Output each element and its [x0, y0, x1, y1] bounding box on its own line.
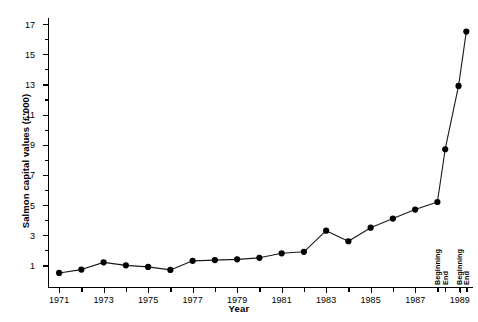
- x-tick-1971: [59, 288, 60, 293]
- data-point: 1973: 1.2: [101, 259, 107, 265]
- x-tick-minor-1978: [215, 288, 216, 292]
- data-point: 1976: 0.7: [167, 267, 173, 273]
- x-tick-1987: [415, 288, 416, 293]
- data-point: 1974: 1: [123, 262, 129, 268]
- data-point: 1975: 0.9: [145, 264, 151, 270]
- x-tick-minor-1986: [393, 288, 394, 292]
- data-point: 1979: 1.4: [234, 256, 240, 262]
- x-tick-label-1989: 1989: [450, 296, 470, 305]
- x-tick-period-2: [459, 288, 460, 292]
- x-tick-label-1983: 1983: [316, 296, 336, 305]
- data-point: 1984: 2.6: [345, 238, 351, 244]
- x-tick-1975: [148, 288, 149, 293]
- y-tick-label: 9: [30, 141, 35, 150]
- series-markers: 1971: 0.51972: 0.721973: 1.21974: 11975:…: [56, 28, 469, 276]
- x-tick-1973: [104, 288, 105, 293]
- y-tick-label: 1: [30, 261, 35, 270]
- data-point: 1978: 1.35: [212, 257, 218, 263]
- y-tick-label: 13: [25, 80, 35, 89]
- x-tick-label-1985: 1985: [361, 296, 381, 305]
- x-tick-minor-1982: [304, 288, 305, 292]
- y-tick-label: 17: [25, 20, 35, 29]
- x-tick-label-1979: 1979: [227, 296, 247, 305]
- data-point: 1989 Beginning: 12.9: [455, 83, 461, 89]
- data-point: 1980: 1.5: [256, 255, 262, 261]
- data-point: 1989 End: 16.5: [463, 28, 469, 34]
- x-tick-period-1: [445, 288, 446, 292]
- x-tick-1989: [460, 288, 461, 293]
- x-tick-1977: [193, 288, 194, 293]
- x-tick-label-1975: 1975: [138, 296, 158, 305]
- data-point: 1983: 3.3: [323, 228, 329, 234]
- x-tick-1981: [282, 288, 283, 293]
- y-tick-label: 7: [30, 171, 35, 180]
- series-line: [59, 32, 466, 273]
- x-tick-label-1987: 1987: [405, 296, 425, 305]
- data-point: 1977: 1.3: [190, 258, 196, 264]
- data-point: 1971: 0.5: [56, 270, 62, 276]
- x-tick-minor-1984: [348, 288, 349, 292]
- x-tick-1985: [371, 288, 372, 293]
- plot-area: 1357911131517 19711973197519771979198119…: [48, 18, 473, 288]
- data-point: 1985: 3.5: [368, 225, 374, 231]
- y-tick-label: 3: [30, 231, 35, 240]
- data-point: 1987: 4.7: [412, 206, 418, 212]
- y-tick-label: 15: [25, 50, 35, 59]
- x-tick-period-3: [466, 288, 467, 292]
- period-label-end-1: End: [442, 271, 449, 285]
- x-tick-1979: [237, 288, 238, 293]
- data-point: 1982: 1.9: [301, 249, 307, 255]
- x-tick-period-0: [437, 288, 438, 292]
- x-tick-1983: [326, 288, 327, 293]
- x-tick-minor-1972: [81, 288, 82, 292]
- period-label-end-3: End: [463, 271, 470, 285]
- data-series-salmon-capital-values: 1971: 0.51972: 0.721973: 1.21974: 11975:…: [48, 18, 473, 288]
- data-point: 1972: 0.72: [78, 267, 84, 273]
- x-tick-label-1971: 1971: [49, 296, 69, 305]
- x-tick-label-1981: 1981: [272, 296, 292, 305]
- y-tick-label: 5: [30, 201, 35, 210]
- data-point: 1986: 4.1: [390, 216, 396, 222]
- x-tick-minor-1980: [259, 288, 260, 292]
- data-point: 1988 Beginning: 5.2: [434, 199, 440, 205]
- x-tick-minor-1974: [126, 288, 127, 292]
- x-tick-label-1977: 1977: [183, 296, 203, 305]
- y-tick-label: 11: [26, 111, 35, 120]
- chart-figure: Salmon capital values (£'000) Year 13579…: [0, 0, 478, 322]
- x-tick-minor-1976: [170, 288, 171, 292]
- data-point: 1981: 1.8: [279, 250, 285, 256]
- data-point: 1988 End: 8.7: [442, 146, 448, 152]
- x-tick-label-1973: 1973: [94, 296, 114, 305]
